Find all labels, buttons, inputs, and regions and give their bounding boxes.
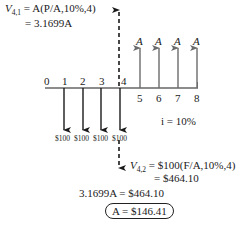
inflow-label-6: A bbox=[155, 35, 162, 47]
v41-formula: = A(P/A,10%,4) bbox=[21, 2, 96, 14]
outflow-label-3: $100 bbox=[93, 133, 108, 145]
v42-formula: = $100(F/A,10%,4) bbox=[146, 159, 235, 171]
outflow-label-1: $100 bbox=[55, 133, 70, 145]
cash-flow-diagram bbox=[0, 0, 249, 237]
tick-4: 4 bbox=[121, 75, 127, 87]
tick-2: 2 bbox=[80, 75, 86, 87]
tick-6: 6 bbox=[156, 92, 162, 104]
tick-0: 0 bbox=[44, 75, 50, 87]
inflow-label-7: A bbox=[174, 35, 181, 47]
inflow-label-5: A bbox=[136, 35, 143, 47]
tick-8: 8 bbox=[194, 92, 200, 104]
result-answer: A = $146.41 bbox=[105, 203, 174, 219]
tick-1: 1 bbox=[62, 75, 68, 87]
outflow-label-2: $100 bbox=[74, 133, 89, 145]
interest-rate-label: i = 10% bbox=[161, 115, 196, 127]
v42-subscript: 4,2 bbox=[137, 165, 146, 174]
tick-7: 7 bbox=[175, 92, 181, 104]
v42-symbol: V bbox=[130, 159, 137, 171]
v41-subscript: 4,1 bbox=[12, 8, 21, 17]
v41-value: = 3.1699A bbox=[25, 17, 72, 29]
v41-symbol: V bbox=[5, 2, 12, 14]
equate-equation: 3.1699A = $464.10 bbox=[79, 187, 164, 199]
v42-value: = $464.10 bbox=[154, 172, 199, 184]
outflow-label-4: $100 bbox=[112, 133, 127, 145]
tick-3: 3 bbox=[99, 75, 105, 87]
inflow-label-8: A bbox=[193, 35, 200, 47]
tick-5: 5 bbox=[137, 92, 143, 104]
